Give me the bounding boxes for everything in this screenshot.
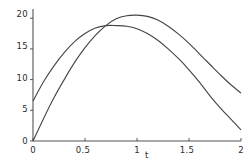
y-tick-label-10: 10 [4, 73, 28, 83]
x-axis-title: t [145, 150, 148, 160]
x-tick-label-1: 1 [127, 145, 147, 155]
x-tick-label-2: 2 [231, 145, 249, 155]
x-tick-label-1-5: 1.5 [172, 145, 202, 155]
chart-figure: 0 5 10 15 20 0 0.5 1 1.5 2 t [0, 0, 249, 160]
x-tick-label-0-5: 0.5 [68, 145, 98, 155]
curve-0-curve-upper-peak [33, 15, 241, 141]
y-tick-label-20: 20 [4, 9, 28, 19]
curve-1-curve-lower-peak [33, 25, 241, 130]
y-tick-label-15: 15 [4, 41, 28, 51]
y-tick-label-5: 5 [8, 104, 28, 114]
plot-area [0, 0, 249, 160]
data-curves [33, 15, 241, 141]
x-tick-label-0: 0 [23, 145, 43, 155]
